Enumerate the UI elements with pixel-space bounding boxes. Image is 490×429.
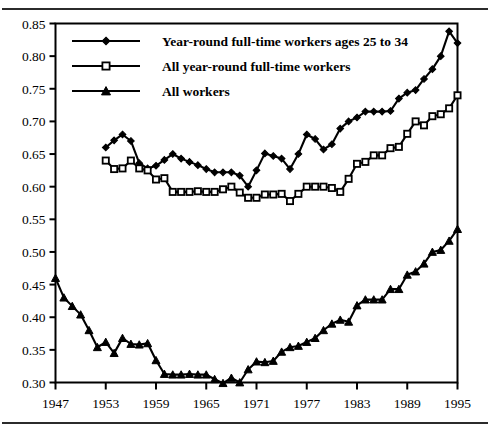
marker-square-open: [111, 166, 117, 172]
marker-square-open: [295, 191, 301, 197]
marker-triangle: [454, 225, 462, 232]
marker-diamond: [211, 169, 218, 176]
marker-diamond: [370, 108, 377, 115]
marker-square-open: [304, 184, 310, 190]
legend-label: Year-round full-time workers ages 25 to …: [162, 34, 408, 49]
marker-square-open: [329, 185, 335, 191]
marker-square-open: [203, 189, 209, 195]
x-tick-label: 1959: [143, 396, 170, 411]
y-tick-label: 0.55: [22, 212, 46, 227]
y-tick-label: 0.50: [22, 245, 46, 260]
y-tick-label: 0.75: [22, 82, 46, 97]
marker-square-open: [438, 111, 444, 117]
marker-square-open: [270, 191, 276, 197]
x-tick-label: 1953: [92, 396, 119, 411]
marker-square-open: [145, 167, 151, 173]
y-tick-label: 0.85: [22, 17, 46, 32]
series-3: [52, 225, 462, 386]
marker-square-open: [429, 113, 435, 119]
x-tick-label: 1983: [344, 396, 371, 411]
marker-triangle: [152, 356, 160, 363]
x-axis-ticks: 194719531959196519711977198319891995: [42, 383, 471, 411]
marker-square-open: [346, 176, 352, 182]
marker-square-open: [245, 195, 251, 201]
legend-label: All year-round full-time workers: [162, 59, 351, 74]
marker-square-open: [421, 122, 427, 128]
plot-frame: [56, 24, 458, 383]
marker-square-open: [362, 159, 368, 165]
x-tick-label: 1965: [193, 396, 220, 411]
marker-square-open: [186, 189, 192, 195]
x-tick-label: 1971: [243, 396, 270, 411]
marker-square-open: [136, 165, 142, 171]
marker-square-open: [387, 145, 393, 151]
marker-square-open: [102, 62, 109, 69]
chart-figure: 0.850.800.750.700.650.600.550.500.450.40…: [0, 0, 490, 429]
marker-triangle: [227, 374, 235, 381]
marker-triangle: [211, 375, 219, 382]
marker-square-open: [354, 161, 360, 167]
marker-triangle: [278, 348, 286, 355]
x-tick-label: 1989: [394, 396, 421, 411]
marker-square-open: [195, 188, 201, 194]
series-line: [106, 31, 458, 186]
marker-square-open: [178, 189, 184, 195]
y-tick-label: 0.45: [22, 278, 46, 293]
marker-square-open: [170, 189, 176, 195]
marker-square-open: [153, 176, 159, 182]
y-tick-label: 0.40: [22, 310, 46, 325]
data-series-group: [52, 28, 462, 387]
marker-diamond: [228, 169, 235, 176]
series-line: [106, 95, 458, 201]
marker-square-open: [446, 105, 452, 111]
marker-square-open: [262, 191, 268, 197]
marker-square-open: [413, 118, 419, 124]
x-tick-label: 1977: [293, 396, 320, 411]
marker-diamond: [379, 108, 386, 115]
series-2: [103, 92, 461, 204]
marker-triangle: [119, 334, 127, 341]
chart-legend: Year-round full-time workers ages 25 to …: [72, 34, 408, 99]
marker-square-open: [103, 157, 109, 163]
marker-square-open: [404, 131, 410, 137]
legend-item-1: Year-round full-time workers ages 25 to …: [72, 34, 408, 49]
marker-square-open: [279, 191, 285, 197]
marker-triangle: [52, 274, 60, 281]
marker-square-open: [212, 189, 218, 195]
marker-square-open: [320, 184, 326, 190]
marker-square-open: [220, 186, 226, 192]
legend-item-3: All workers: [72, 84, 230, 99]
marker-square-open: [379, 152, 385, 158]
marker-square-open: [396, 144, 402, 150]
marker-square-open: [119, 165, 125, 171]
marker-diamond: [186, 159, 193, 166]
y-tick-label: 0.60: [22, 180, 46, 195]
marker-square-open: [371, 152, 377, 158]
y-tick-label: 0.65: [22, 147, 46, 162]
marker-square-open: [337, 189, 343, 195]
marker-square-open: [253, 195, 259, 201]
marker-diamond: [203, 166, 210, 173]
marker-diamond: [220, 169, 227, 176]
marker-square-open: [312, 184, 318, 190]
marker-diamond: [195, 162, 202, 169]
marker-square-open: [237, 189, 243, 195]
marker-diamond: [102, 37, 110, 45]
marker-square-open: [228, 184, 234, 190]
y-tick-label: 0.30: [22, 376, 46, 391]
marker-square-open: [454, 92, 460, 98]
y-tick-label: 0.35: [22, 343, 46, 358]
x-tick-label: 1995: [444, 396, 471, 411]
y-tick-label: 0.80: [22, 49, 46, 64]
line-chart-plot: 0.850.800.750.700.650.600.550.500.450.40…: [0, 0, 490, 429]
marker-triangle: [102, 338, 110, 345]
marker-triangle: [85, 326, 93, 333]
series-1: [102, 28, 460, 190]
y-axis-ticks: 0.850.800.750.700.650.600.550.500.450.40…: [22, 17, 56, 391]
y-tick-label: 0.70: [22, 114, 46, 129]
axes-group: [56, 24, 458, 383]
marker-square-open: [287, 198, 293, 204]
legend-item-2: All year-round full-time workers: [72, 59, 351, 74]
marker-square-open: [161, 175, 167, 181]
marker-triangle: [60, 294, 68, 301]
